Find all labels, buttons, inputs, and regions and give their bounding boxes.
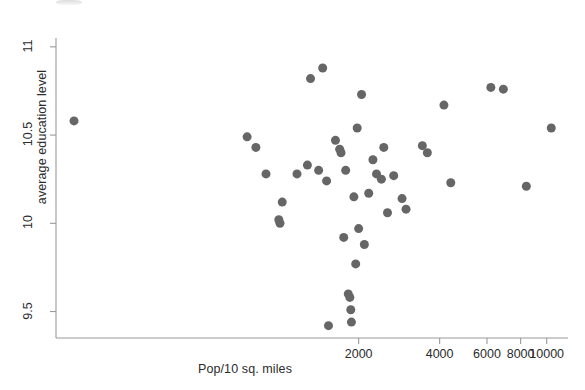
y-axis-tick-label: 11 — [21, 24, 35, 68]
data-point — [331, 136, 340, 145]
x-axis-tick-label: 10000 — [517, 347, 577, 361]
data-point — [486, 83, 495, 92]
data-point — [379, 143, 388, 152]
plot-canvas — [0, 0, 585, 390]
data-point — [318, 64, 327, 73]
data-point — [389, 171, 398, 180]
data-point — [314, 166, 323, 175]
data-point — [322, 176, 331, 185]
data-point — [357, 90, 366, 99]
data-point — [360, 240, 369, 249]
data-point — [303, 161, 312, 170]
y-axis-title: average education level — [35, 17, 49, 257]
data-point — [278, 198, 287, 207]
data-point — [243, 132, 252, 141]
data-point — [293, 169, 302, 178]
data-point — [364, 189, 373, 198]
data-point — [377, 175, 386, 184]
data-point — [306, 74, 315, 83]
data-point — [251, 143, 260, 152]
data-point — [347, 318, 356, 327]
data-point — [349, 192, 358, 201]
y-axis-tick-label: 10 — [21, 200, 35, 244]
data-point — [346, 305, 355, 314]
data-point — [423, 148, 432, 157]
data-point — [345, 293, 354, 302]
data-point — [439, 101, 448, 110]
data-point — [351, 259, 360, 268]
data-point — [368, 155, 377, 164]
y-axis-tick-label: 9.5 — [21, 289, 35, 333]
data-point — [70, 116, 79, 125]
data-point — [446, 178, 455, 187]
scatter-plot-figure: average education level Pop/10 sq. miles… — [0, 0, 585, 390]
data-point — [353, 124, 362, 133]
data-point — [499, 85, 508, 94]
data-point — [354, 224, 363, 233]
y-axis-tick-label: 10.5 — [21, 112, 35, 156]
data-point — [341, 166, 350, 175]
data-point — [522, 182, 531, 191]
data-point — [383, 208, 392, 217]
data-point — [339, 233, 348, 242]
data-point — [398, 194, 407, 203]
data-point — [324, 321, 333, 330]
data-point-series — [70, 64, 556, 331]
x-axis-title: Pop/10 sq. miles — [55, 362, 435, 376]
data-point — [275, 219, 284, 228]
data-point — [547, 124, 556, 133]
data-point — [402, 205, 411, 214]
data-point — [337, 148, 346, 157]
data-point — [262, 169, 271, 178]
x-axis-tick-label: 2000 — [329, 347, 389, 361]
